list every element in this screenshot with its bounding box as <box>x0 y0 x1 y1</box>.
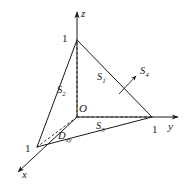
surface-label-s1: S1 <box>97 72 106 85</box>
axis-label-z: z <box>81 8 85 19</box>
surface-label-s4-index: 4 <box>145 71 149 79</box>
geometry-figure: z y x 1 1 1 O S1 S2 S3 S4 Dxy <box>0 0 189 186</box>
edge-x-to-y <box>37 117 152 147</box>
axis-label-y: y <box>168 121 173 132</box>
hidden-edges <box>37 40 152 147</box>
region-label-dxy: Dxy <box>58 131 72 144</box>
tick-label-x-1: 1 <box>25 143 31 154</box>
tick-label-y-1: 1 <box>152 124 158 135</box>
surface-label-s1-index: 1 <box>102 77 106 85</box>
surface-label-s3-index: 3 <box>101 126 105 134</box>
axis-label-x: x <box>22 169 27 180</box>
surface-label-s4: S4 <box>140 66 149 79</box>
surface-label-s2: S2 <box>57 85 66 98</box>
figure-svg <box>0 0 189 186</box>
origin-label: O <box>79 103 87 114</box>
surface-label-s3: S3 <box>96 121 105 134</box>
tick-label-z-1: 1 <box>62 33 68 44</box>
solid-edges <box>37 40 152 147</box>
region-label-dxy-letter: D <box>58 130 66 141</box>
surface-label-s2-index: 2 <box>62 90 66 98</box>
region-label-dxy-index: xy <box>66 136 72 144</box>
